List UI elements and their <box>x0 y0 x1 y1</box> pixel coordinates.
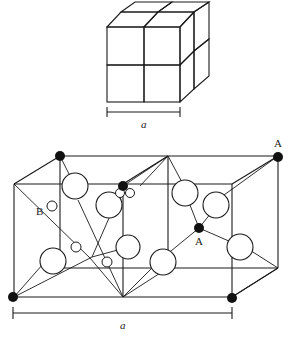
large-atom <box>40 248 66 274</box>
bottom-dimension-label: a <box>120 319 126 331</box>
label-A-corner: A <box>274 137 282 149</box>
dark-atom <box>227 293 237 303</box>
small-atom <box>126 189 135 198</box>
unit-cell: A A B a <box>8 137 283 331</box>
top-dimension-label: a <box>141 118 147 130</box>
dark-atom <box>8 292 18 302</box>
label-A-inner: A <box>195 235 203 247</box>
figure: a <box>0 0 296 337</box>
large-atom <box>116 235 140 259</box>
small-atom <box>102 257 112 267</box>
dark-atom-A-inner <box>194 223 204 233</box>
large-atom <box>203 192 229 218</box>
large-atom <box>62 173 88 199</box>
dark-atom <box>55 151 65 161</box>
dark-atom-A-corner <box>273 152 283 162</box>
large-atom <box>150 249 176 275</box>
dark-atom <box>118 181 128 191</box>
large-atom <box>227 234 253 260</box>
checker-cube: a <box>107 2 209 130</box>
label-B: B <box>36 205 43 217</box>
small-atom <box>71 242 81 252</box>
small-atom-B <box>47 201 57 211</box>
large-atom <box>172 180 198 206</box>
